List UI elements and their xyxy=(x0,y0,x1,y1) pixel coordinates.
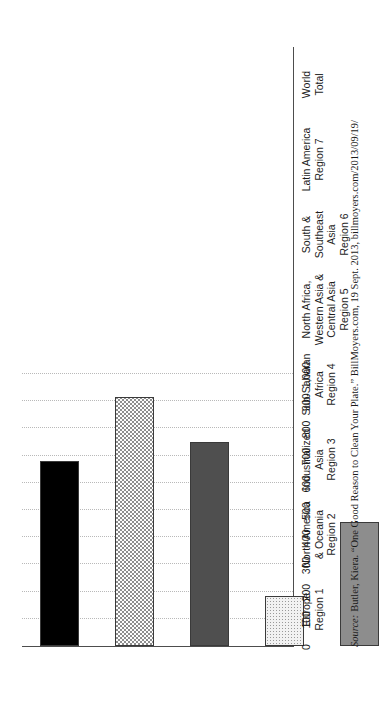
bar xyxy=(190,442,229,646)
plot-area xyxy=(22,47,294,647)
bar xyxy=(115,397,154,646)
category-label-line: Region 1 xyxy=(313,572,326,647)
category-label-line: Sub-Saharan xyxy=(300,347,313,422)
category-label-line: South & xyxy=(300,197,313,272)
category-label: Sub-SaharanAfricaRegion 4 xyxy=(300,347,338,422)
category-label-line: North Africa, xyxy=(300,272,313,347)
gridline xyxy=(22,373,293,374)
gridline xyxy=(22,400,293,401)
category-label-line: Southeast xyxy=(313,197,326,272)
category-label: IndustrializedAsiaRegion 3 xyxy=(300,422,338,497)
source-citation: Source: Butler, Kiera. “One Good Reason … xyxy=(348,7,360,647)
category-label-line: Latin America xyxy=(300,122,313,197)
category-label: EuropeRegion 1 xyxy=(300,572,325,647)
category-label-line: Total xyxy=(313,47,326,122)
category-label-line: Central Asia xyxy=(325,272,338,347)
category-label-line: Western Asia & xyxy=(313,272,326,347)
category-label: WorldTotal xyxy=(300,47,325,122)
source-text: Butler, Kiera. “One Good Reason to Clean… xyxy=(349,120,360,612)
category-label-line: Asia xyxy=(325,197,338,272)
category-label: North Africa,Western Asia &Central AsiaR… xyxy=(300,272,350,347)
source-label: Source: xyxy=(349,615,360,647)
gridline xyxy=(22,427,293,428)
category-label-line: Region 2 xyxy=(325,497,338,572)
category-label-line: Industrialized xyxy=(300,422,313,497)
category-label-line: & Oceania xyxy=(313,497,326,572)
category-label-line: Europe xyxy=(300,572,313,647)
category-label-line: Region 4 xyxy=(325,347,338,422)
chart-stage: 1,0009008007006005004003002001000 Europe… xyxy=(0,0,379,710)
category-label-line: Asia xyxy=(313,422,326,497)
category-label: North America& OceaniaRegion 2 xyxy=(300,497,338,572)
bar xyxy=(265,596,304,646)
bar xyxy=(40,461,79,646)
category-label-line: Africa xyxy=(313,347,326,422)
category-label: South &SoutheastAsiaRegion 6 xyxy=(300,197,350,272)
category-label-line: World xyxy=(300,47,313,122)
category-label-line: Region 7 xyxy=(313,122,326,197)
category-label-line: Region 3 xyxy=(325,422,338,497)
category-label-line: North America xyxy=(300,497,313,572)
category-label: Latin AmericaRegion 7 xyxy=(300,122,325,197)
gridline xyxy=(22,455,293,456)
